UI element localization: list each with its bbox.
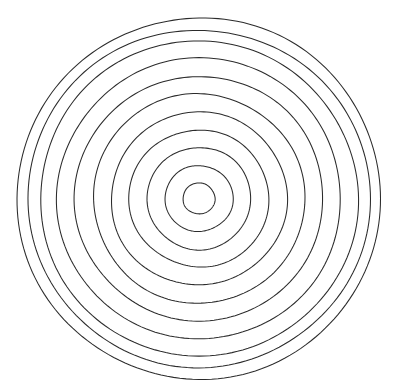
ring-5 [112,112,288,285]
concentric-circles-figure [0,0,406,392]
ring-11 [17,18,380,380]
figure-canvas [0,0,406,392]
ring-4 [129,130,269,267]
ring-10 [28,30,371,368]
ring-9 [41,41,359,356]
ring-6 [94,94,305,304]
ring-2 [165,166,233,232]
ring-3 [147,148,251,250]
ring-8 [56,58,340,339]
rings-group [17,18,380,380]
ring-1 [183,183,215,214]
